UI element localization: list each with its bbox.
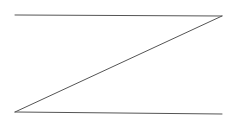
z-diagram: [0, 0, 236, 122]
top-line: [15, 15, 222, 16]
bottom-line: [15, 112, 222, 114]
diagonal-line: [15, 16, 222, 112]
